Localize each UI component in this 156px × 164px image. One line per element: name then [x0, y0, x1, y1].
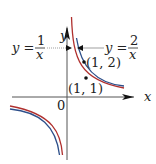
origin-label: 0 [57, 98, 65, 113]
curve-label-1-over-x-lhs: y = [11, 40, 34, 55]
x-axis-label: x [144, 89, 152, 104]
curve-label-2-over-x-lhs: y = [104, 40, 127, 55]
curve-label-1-over-x-numerator: 1 [37, 33, 45, 48]
point-label-1-2: (1, 2) [86, 55, 121, 70]
curve-y-2-over-x-neg [10, 109, 60, 155]
leader-arrow-icon [66, 45, 72, 51]
y-axis-label: y [59, 28, 68, 43]
curve-label-1-over-x-denominator: x [36, 47, 44, 62]
point-label-1-1: (1, 1) [68, 81, 103, 96]
curve-label-2-over-x-numerator: 2 [130, 33, 138, 48]
curve-y-1-over-x-neg [10, 106, 63, 155]
hyperbola-diagram: y x 0 y = 1 x y = 2 x (1, 2) (1, 1) [0, 0, 156, 164]
point-1-1 [84, 76, 88, 80]
curve-label-2-over-x-denominator: x [129, 47, 137, 62]
